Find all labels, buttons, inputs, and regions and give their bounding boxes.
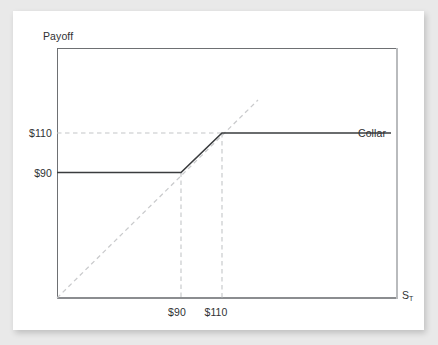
y-axis-title: Payoff [43, 31, 73, 42]
collar-series-label: Collar [358, 128, 386, 139]
y-axis-tick-110: $110 [13, 128, 52, 139]
x-axis-tick-110: $110 [194, 307, 238, 318]
x-axis-title: ST [402, 290, 414, 301]
reference-line-45deg [57, 100, 258, 298]
collar-payoff-line [57, 133, 391, 173]
y-axis-tick-90: $90 [13, 168, 52, 179]
x-axis-tick-90: $90 [157, 307, 197, 318]
x-axis-subscript: T [409, 295, 413, 302]
figure-card: Payoff $110 $90 $90 $110 ST Collar [13, 11, 424, 330]
chart-canvas [13, 11, 424, 330]
